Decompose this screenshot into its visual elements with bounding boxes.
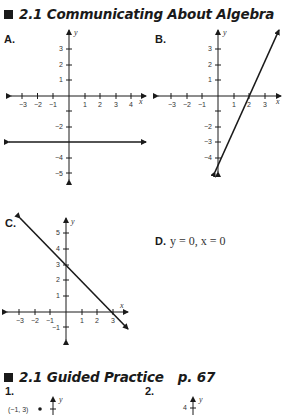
svg-text:1: 1 <box>83 101 87 108</box>
arrow-up-icon <box>190 396 196 402</box>
svg-text:x: x <box>138 97 143 106</box>
answer-d: D.y = 0, x = 0 <box>155 234 226 249</box>
svg-text:−1: −1 <box>46 317 54 324</box>
svg-text:−2: −2 <box>204 123 212 130</box>
svg-text:3: 3 <box>111 317 115 324</box>
svg-text:−3: −3 <box>16 317 24 324</box>
svg-text:−1: −1 <box>198 101 206 108</box>
svg-text:−4: −4 <box>55 154 63 161</box>
svg-text:3: 3 <box>59 45 63 52</box>
section-title-guided-practice: 2.1 Guided Practicep. 67 <box>4 369 215 385</box>
svg-text:1: 1 <box>59 76 63 83</box>
svg-text:−5: −5 <box>55 170 63 177</box>
svg-text:3: 3 <box>114 101 118 108</box>
point-label: (−1, 3) <box>8 406 28 414</box>
svg-text:−2: −2 <box>31 317 39 324</box>
svg-text:−4: −4 <box>204 154 212 161</box>
svg-text:y: y <box>73 28 78 37</box>
svg-text:1: 1 <box>56 292 60 299</box>
section-page-ref: p. 67 <box>178 369 215 385</box>
svg-text:2: 2 <box>59 61 63 68</box>
svg-text:2: 2 <box>208 61 212 68</box>
graph-b: −3−2−1 123 x y 321 −2−3−4 <box>145 25 287 180</box>
svg-text:−2: −2 <box>55 123 63 130</box>
svg-text:3: 3 <box>56 261 60 268</box>
section-title-communicating: 2.1 Communicating About Algebrap. 66 <box>4 6 287 22</box>
svg-text:1: 1 <box>208 76 212 83</box>
svg-text:−1: −1 <box>49 101 57 108</box>
section-title-text: 2.1 Communicating About Algebra <box>19 6 274 22</box>
svg-text:−3: −3 <box>19 101 27 108</box>
svg-text:x: x <box>119 301 124 310</box>
svg-text:y: y <box>58 395 63 404</box>
svg-text:−2: −2 <box>34 101 42 108</box>
svg-text:4: 4 <box>56 245 60 252</box>
svg-text:4: 4 <box>129 101 133 108</box>
svg-text:y: y <box>70 217 75 226</box>
graph-c: −3−2−1 123 x y 543 21−1 <box>0 210 145 345</box>
svg-text:3: 3 <box>263 101 267 108</box>
svg-text:y: y <box>198 395 203 404</box>
svg-text:y: y <box>222 28 227 37</box>
svg-text:1: 1 <box>80 317 84 324</box>
practice-item-2-label: 2. <box>145 385 154 397</box>
practice-graph-2: 4 y <box>175 395 215 415</box>
graph-a: −3−2−1 1234 x y 321 −2−4−5 <box>0 25 150 190</box>
svg-text:3: 3 <box>208 45 212 52</box>
svg-text:5: 5 <box>56 229 60 236</box>
arrow-up-icon <box>50 396 56 402</box>
point-marker <box>38 407 42 411</box>
svg-text:2: 2 <box>247 101 251 108</box>
bullet-square-icon <box>4 10 13 19</box>
svg-text:−3: −3 <box>204 138 212 145</box>
svg-text:−1: −1 <box>52 324 60 331</box>
bullet-square-icon <box>4 373 13 382</box>
tick-label: 4 <box>183 404 187 411</box>
answer-d-text: y = 0, x = 0 <box>170 234 226 248</box>
svg-text:2: 2 <box>98 101 102 108</box>
answer-d-label: D. <box>155 235 166 247</box>
svg-text:2: 2 <box>95 317 99 324</box>
svg-text:2: 2 <box>56 276 60 283</box>
svg-text:−2: −2 <box>183 101 191 108</box>
svg-text:−3: −3 <box>168 101 176 108</box>
svg-text:1: 1 <box>232 101 236 108</box>
section-title-text: 2.1 Guided Practice <box>19 369 164 385</box>
practice-graph-1: (−1, 3) y <box>0 395 80 415</box>
svg-text:x: x <box>275 97 280 106</box>
